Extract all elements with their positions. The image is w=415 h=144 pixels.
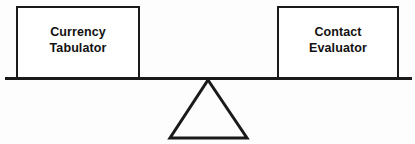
right-pan: Contact Evaluator: [277, 6, 399, 79]
balance-scale-diagram: Currency Tabulator Contact Evaluator: [0, 0, 415, 144]
fulcrum-triangle: [170, 80, 247, 138]
left-pan: Currency Tabulator: [16, 6, 140, 79]
right-pan-label: Contact Evaluator: [309, 24, 367, 56]
left-pan-label: Currency Tabulator: [50, 24, 107, 56]
